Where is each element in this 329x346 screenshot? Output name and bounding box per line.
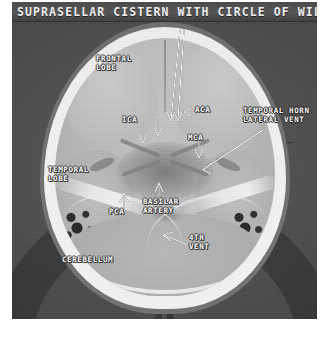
aca-chevron-icon <box>184 108 191 116</box>
fourth-vent-leader <box>164 235 188 245</box>
label-cerebellum: CEREBELLUM <box>62 255 113 264</box>
temporal-horn-arrowhead <box>203 163 212 174</box>
screenshot-root: FRONTAL LOBE ACA ICA MCA TEMPORAL HORN L… <box>0 0 329 346</box>
label-fourth-vent: 4TH VENT <box>189 233 209 251</box>
label-mca: MCA <box>188 133 203 142</box>
page-title: SUPRASELLAR CISTERN WITH CIRCLE OF WILLI… <box>17 5 317 19</box>
annotation-layer: FRONTAL LOBE ACA ICA MCA TEMPORAL HORN L… <box>12 2 317 319</box>
label-pca: PCA <box>109 207 124 216</box>
label-ica: ICA <box>122 115 137 124</box>
label-temporal-horn-lateral-vent: TEMPORAL HORN LATERAL VENT <box>243 106 310 124</box>
label-temporal-lobe: TEMPORAL LOBE <box>48 165 89 183</box>
ct-scan-frame: FRONTAL LOBE ACA ICA MCA TEMPORAL HORN L… <box>12 2 317 319</box>
temporal-horn-leader <box>204 130 263 169</box>
label-frontal-lobe: FRONTAL LOBE <box>96 54 132 72</box>
label-aca: ACA <box>195 105 210 114</box>
annotation-arrows <box>12 2 317 319</box>
label-basilar-artery: BASILAR ARTERY <box>143 197 179 215</box>
title-band: SUPRASELLAR CISTERN WITH CIRCLE OF WILLI… <box>12 2 317 22</box>
